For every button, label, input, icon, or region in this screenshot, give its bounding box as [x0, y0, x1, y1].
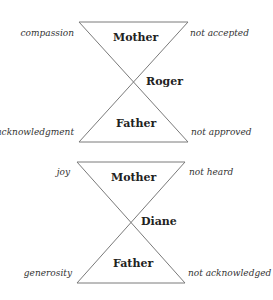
label-top-left: joy: [57, 167, 70, 177]
label-bottom-right: not approved: [191, 127, 251, 137]
top-name: Mother: [111, 171, 156, 184]
top-name: Mother: [113, 31, 158, 44]
bottom-name: Father: [116, 117, 156, 130]
label-top-right: not heard: [189, 167, 233, 177]
label-bottom-left: generosity: [24, 268, 72, 278]
label-top-left: compassion: [21, 28, 74, 38]
label-bottom-right: not acknowledged: [188, 268, 271, 278]
label-top-right: not accepted: [190, 28, 249, 38]
bottom-name: Father: [113, 257, 153, 270]
label-bottom-left: acknowledgment: [0, 127, 74, 137]
person-name: Roger: [146, 75, 183, 88]
person-name: Diane: [141, 215, 177, 228]
hourglass-lines: [0, 0, 273, 300]
